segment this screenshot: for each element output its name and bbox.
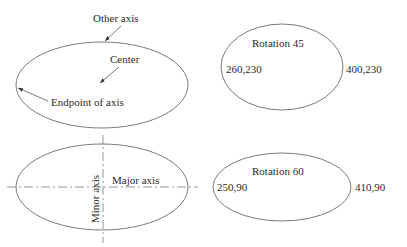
ellipse-diagram-canvas: Other axis Center Endpoint of axis Rotat… [0,0,407,247]
panel-major-minor-axes: Major axis Minor axis [7,135,198,243]
other-axis-arrow [105,26,121,41]
endpoint-label: Endpoint of axis [51,96,124,108]
rotation-45-right-point: 400,230 [346,63,382,75]
rotation-60-right-point: 410,90 [355,181,386,193]
other-axis-label: Other axis [93,12,139,24]
major-axis-label: Major axis [112,174,159,186]
rotation-60-title: Rotation 60 [252,165,304,177]
rotation-45-title: Rotation 45 [252,37,304,49]
minor-axis-label: Minor axis [89,175,101,223]
rotation-60-left-point: 250,90 [217,181,248,193]
anatomy-ellipse [16,42,188,128]
panel-rotation-60: Rotation 60 250,90 410,90 [213,153,386,221]
panel-ellipse-anatomy: Other axis Center Endpoint of axis [16,12,188,128]
center-label: Center [110,53,140,65]
panel-rotation-45: Rotation 45 260,230 400,230 [221,24,382,110]
rotation-45-left-point: 260,230 [226,63,262,75]
endpoint-arrow [18,88,48,101]
center-arrow [100,67,119,83]
